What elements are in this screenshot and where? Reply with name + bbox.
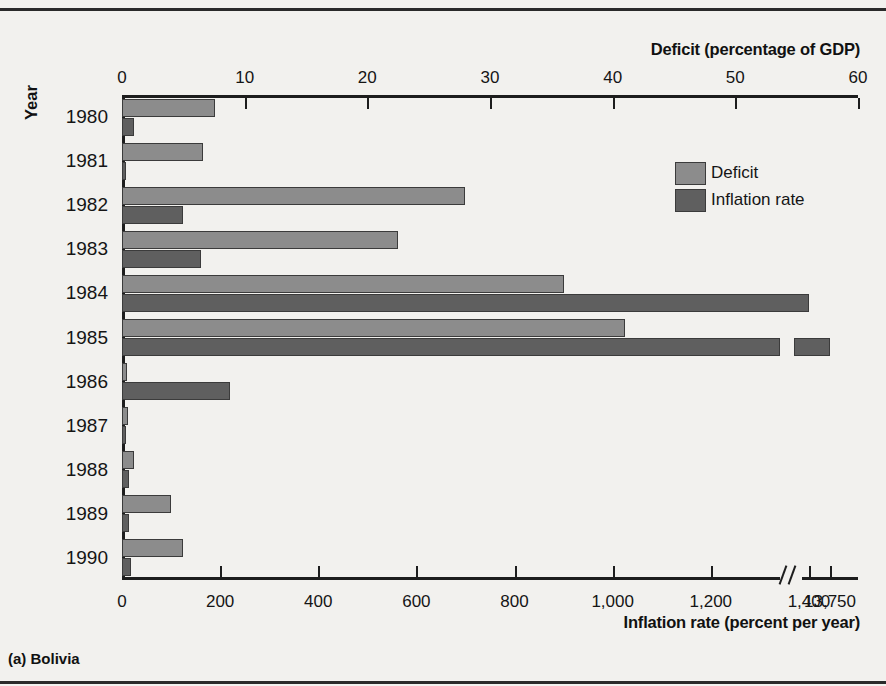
year-axis-label: 1985 <box>66 327 108 349</box>
top-axis-title: Deficit (percentage of GDP) <box>651 40 860 59</box>
bottom-tick <box>613 566 615 577</box>
bottom-tick <box>809 566 811 577</box>
top-tick <box>735 98 737 109</box>
bottom-axis-title: Inflation rate (percent per year) <box>624 613 860 632</box>
legend-item: Inflation rate <box>675 187 805 213</box>
bar-inflation <box>122 294 809 312</box>
top-tick <box>245 98 247 109</box>
bottom-tick-label: 0 <box>117 592 126 612</box>
bar-inflation <box>122 470 129 488</box>
top-tick-label: 40 <box>603 68 622 88</box>
legend-label: Inflation rate <box>711 190 805 210</box>
year-axis-label: 1983 <box>66 238 108 260</box>
inflation-swatch <box>675 189 706 212</box>
bar-inflation-broken-segment <box>794 338 830 356</box>
top-tick <box>613 98 615 109</box>
bar-deficit <box>122 407 128 425</box>
year-axis-label: 1989 <box>66 503 108 525</box>
top-tick-label: 20 <box>358 68 377 88</box>
bottom-tick-label: 400 <box>304 592 332 612</box>
year-axis-label: 1981 <box>66 150 108 172</box>
bottom-tick-label: 800 <box>500 592 528 612</box>
bar-inflation <box>122 118 134 136</box>
deficit-swatch <box>675 162 706 185</box>
year-axis-label: 1980 <box>66 106 108 128</box>
bottom-axis-line <box>122 577 858 580</box>
bar-deficit <box>122 319 625 337</box>
legend-label: Deficit <box>711 163 758 183</box>
bar-inflation <box>122 338 780 356</box>
bar-deficit <box>122 363 127 381</box>
year-axis-label: 1987 <box>66 415 108 437</box>
year-axis-label: 1984 <box>66 282 108 304</box>
bar-inflation <box>122 206 183 224</box>
bar-inflation <box>122 250 201 268</box>
bottom-tick <box>220 566 222 577</box>
bar-deficit <box>122 231 398 249</box>
bar-inflation <box>122 558 131 576</box>
top-tick <box>367 98 369 109</box>
bottom-tick-label: 1,000 <box>591 592 634 612</box>
bottom-tick-labels: 02004006008001,0001,2001,40013,750 <box>122 582 858 608</box>
bottom-tick <box>830 566 832 577</box>
bar-inflation <box>122 514 129 532</box>
bar-inflation <box>122 162 126 180</box>
bottom-tick <box>318 566 320 577</box>
bar-deficit <box>122 99 215 117</box>
bottom-tick-label: 200 <box>206 592 234 612</box>
top-tick <box>490 98 492 109</box>
year-axis-label: 1988 <box>66 459 108 481</box>
bar-inflation <box>122 426 126 444</box>
bar-deficit <box>122 495 171 513</box>
bar-deficit <box>122 187 465 205</box>
legend-item: Deficit <box>675 160 805 186</box>
bar-deficit <box>122 143 203 161</box>
year-axis-label: 1986 <box>66 371 108 393</box>
bottom-tick <box>515 566 517 577</box>
bottom-tick-label: 600 <box>402 592 430 612</box>
figure-bolivia-deficit-inflation: Deficit (percentage of GDP) Inflation ra… <box>0 0 886 686</box>
bottom-rule <box>0 681 886 684</box>
bar-deficit <box>122 539 183 557</box>
top-tick-label: 60 <box>849 68 868 88</box>
bottom-tick <box>416 566 418 577</box>
top-tick <box>858 98 860 109</box>
bar-deficit <box>122 451 134 469</box>
year-axis-labels: 1980198119821983198419851986198719881989… <box>0 95 118 580</box>
bar-deficit <box>122 275 564 293</box>
bar-inflation <box>122 382 230 400</box>
axis-break-icon <box>778 566 804 588</box>
top-tick-label: 30 <box>481 68 500 88</box>
year-axis-label: 1982 <box>66 194 108 216</box>
bottom-tick-label: 1,200 <box>690 592 733 612</box>
top-tick-label: 50 <box>726 68 745 88</box>
top-tick-label: 0 <box>117 68 126 88</box>
panel-caption: (a) Bolivia <box>8 650 80 667</box>
top-rule <box>0 8 886 11</box>
bottom-tick-label: 13,750 <box>804 592 856 612</box>
year-axis-label: 1990 <box>66 547 108 569</box>
top-tick-label: 10 <box>235 68 254 88</box>
bottom-tick <box>711 566 713 577</box>
legend: DeficitInflation rate <box>675 160 805 214</box>
